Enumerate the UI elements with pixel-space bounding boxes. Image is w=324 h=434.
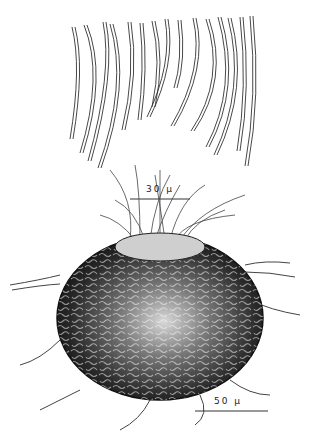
hair-tuft xyxy=(100,165,245,240)
scale-label-30: 30 µ xyxy=(146,184,174,194)
ostiole-collar xyxy=(115,233,205,261)
setae-group xyxy=(70,16,256,168)
scale-label-50: 50 µ xyxy=(214,396,242,406)
fungus-illustration xyxy=(0,0,324,434)
